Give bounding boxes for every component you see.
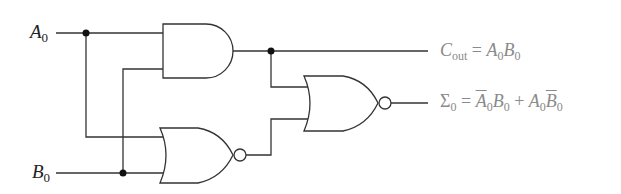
cout-b: B (504, 40, 515, 60)
and-gate (163, 24, 233, 78)
b-name: B (32, 161, 44, 182)
term2-a: A (529, 91, 540, 111)
input-label-a0: A0 (30, 21, 48, 46)
wire-nor1-to-nor2 (246, 119, 309, 155)
input-label-b0: B0 (32, 161, 50, 186)
output-label-sum: Σ0 = A0B0 + A0B0 (440, 91, 563, 115)
wire-a0-to-nor1 (86, 33, 168, 137)
term1-a-bar: A (476, 91, 487, 111)
junction-a0 (83, 30, 90, 37)
sum-sigma: Σ (440, 91, 450, 111)
wire-and-to-nor2 (271, 51, 309, 87)
junction-cout (268, 48, 275, 55)
half-adder-diagram: A0 B0 Cout = A0B0 Σ0 = A0B0 + A0B0 (0, 0, 621, 194)
junction-b0 (120, 170, 127, 177)
nor-bottom-bubble (234, 149, 246, 161)
a-name: A (30, 21, 42, 42)
sum-eq: = (456, 91, 475, 111)
a-sub: 0 (42, 30, 49, 45)
b-sub: 0 (44, 170, 51, 185)
cout-eq: = (467, 40, 486, 60)
term2-b-bar: B (546, 91, 557, 111)
cout-sub: out (452, 49, 467, 63)
nor-gate-bottom (160, 128, 233, 183)
cout-c: C (440, 40, 452, 60)
nor-right-bubble (379, 97, 391, 109)
output-label-cout: Cout = A0B0 (440, 40, 521, 64)
cout-a: A (487, 40, 498, 60)
term1-b: B (493, 91, 504, 111)
term2-b-sub: 0 (557, 100, 563, 114)
cout-b-sub: 0 (515, 49, 521, 63)
wire-b0-to-and (123, 69, 163, 173)
nor-gate-right (304, 76, 378, 131)
plus-sign: + (510, 91, 529, 111)
